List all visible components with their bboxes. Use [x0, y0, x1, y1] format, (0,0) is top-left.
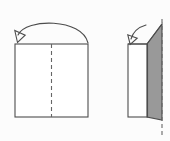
folded-back-panel: [128, 44, 148, 117]
paper-fold-diagram: [0, 0, 170, 141]
fold-diagram-container: Flat square sheet before folding Partial…: [0, 0, 170, 141]
